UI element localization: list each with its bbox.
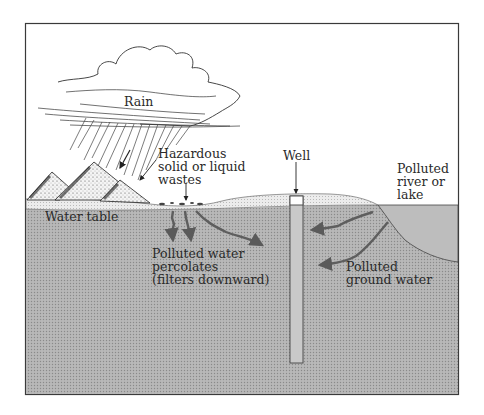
label-polluted-ground-water: Polluted ground water [346,260,432,286]
label-rain: Rain [124,95,153,108]
label-polluted-river: Polluted river or lake [397,162,449,201]
diagram-canvas [0,0,484,415]
well-shaft [290,196,303,363]
label-polluted-water-percolates: Polluted water percolates (filters downw… [152,247,269,286]
groundwater-pollution-diagram: Rain Hazardous solid or liquid wastes We… [0,0,484,415]
ground-water-layer [26,205,458,394]
label-well: Well [283,149,310,162]
label-water-table: Water table [45,210,118,223]
label-hazardous-wastes: Hazardous solid or liquid wastes [158,147,245,186]
